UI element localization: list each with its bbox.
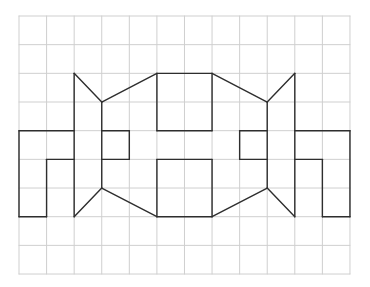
figure-segment [267, 188, 295, 217]
grid-lines [19, 16, 350, 274]
figure-segment [74, 188, 102, 217]
figure-segment [74, 73, 102, 102]
grid-diagram [0, 0, 370, 287]
figure-segment [267, 73, 295, 102]
